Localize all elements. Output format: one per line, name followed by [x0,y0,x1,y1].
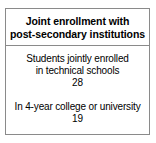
stat-value-four-year-college: 19 [8,113,147,125]
stat-group-four-year-college: In 4-year college or university 19 [8,101,147,125]
card-title-line-1: Joint enrollment with [9,15,146,28]
card-header: Joint enrollment with post-secondary ins… [6,9,149,46]
stat-label-line-2: in technical schools [8,65,147,77]
stat-label-line-1: Students jointly enrolled [8,53,147,65]
joint-enrollment-card: Joint enrollment with post-secondary ins… [5,8,150,135]
stat-group-technical-schools: Students jointly enrolled in technical s… [8,53,147,89]
stat-value-technical-schools: 28 [8,77,147,89]
card-body: Students jointly enrolled in technical s… [6,46,149,125]
card-title-line-2: post-secondary institutions [9,28,146,41]
stat-label-line-1: In 4-year college or university [8,101,147,113]
